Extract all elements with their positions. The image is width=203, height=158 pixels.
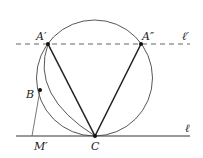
label-l-prime: ℓ′ xyxy=(182,30,190,43)
label-m-prime: M′ xyxy=(33,140,48,153)
point-b xyxy=(38,88,42,92)
label-c: C xyxy=(91,140,100,153)
label-l: ℓ xyxy=(185,122,190,135)
circle xyxy=(37,20,153,136)
label-a-prime: A′ xyxy=(35,30,47,43)
diagram-svg: A′ A″ ℓ′ B ℓ M′ C xyxy=(0,0,203,158)
point-c xyxy=(93,134,97,138)
segment-a-prime-c xyxy=(48,44,95,136)
label-a-double-prime: A″ xyxy=(141,30,155,43)
label-b: B xyxy=(25,88,34,101)
point-a-prime xyxy=(46,42,50,46)
segment-a-double-prime-c xyxy=(95,44,141,136)
geometry-diagram: A′ A″ ℓ′ B ℓ M′ C xyxy=(0,0,203,158)
